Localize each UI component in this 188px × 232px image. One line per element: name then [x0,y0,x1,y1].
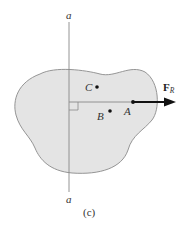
diagram-canvas: a a C B A FR (c) [0,0,188,232]
point-a-dot [131,100,135,104]
point-b-label: B [97,110,104,122]
figure-caption: (c) [83,206,96,219]
axis-top-label: a [66,9,72,21]
point-c-dot [95,85,99,89]
point-c-label: C [85,81,93,93]
force-label: FR [163,81,175,95]
force-subscript: R [169,86,175,95]
point-a-label: A [123,105,131,117]
axis-bottom-label: a [66,193,72,205]
force-arrow-head-icon [164,98,176,107]
point-b-dot [108,109,112,113]
